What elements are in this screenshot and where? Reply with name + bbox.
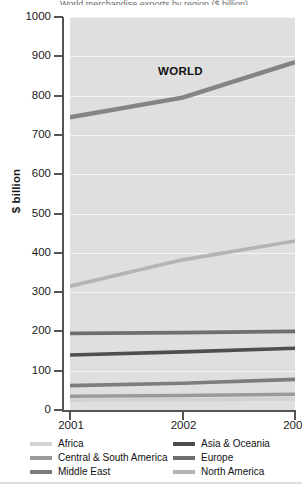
legend-item[interactable]: Africa — [30, 437, 161, 451]
series-line-europe — [70, 331, 295, 333]
world-series-annotation: WORLD — [158, 65, 203, 77]
y-axis-tick-label-wrap: 400 — [0, 253, 51, 254]
legend-item[interactable]: Middle East — [30, 465, 161, 479]
y-axis-tick-label: 700 — [5, 128, 51, 140]
legend: AfricaCentral & South AmericaMiddle East… — [30, 437, 292, 479]
legend-item[interactable]: Asia & Oceania — [173, 437, 302, 451]
legend-item-label: Africa — [58, 439, 84, 449]
legend-color-swatch — [173, 470, 195, 474]
legend-item-label: Central & South America — [58, 453, 168, 463]
y-axis-tick-label-wrap: 700 — [0, 135, 51, 136]
y-axis-tick-label-wrap: 0 — [0, 410, 51, 411]
y-axis-tick-mark — [54, 173, 63, 175]
series-line-middle-east — [70, 379, 295, 385]
x-axis-tick-label: 2001 — [41, 419, 101, 431]
y-axis-tick-label-wrap: 200 — [0, 331, 51, 332]
series-line-north-america — [70, 241, 295, 286]
y-axis-tick-label: 1000 — [5, 10, 51, 22]
legend-item[interactable]: Europe — [173, 451, 302, 465]
legend-item[interactable]: North America — [173, 465, 302, 479]
legend-color-swatch — [30, 456, 52, 460]
y-axis-tick-label-wrap: 600 — [0, 174, 51, 175]
x-axis-tick-label: 2003 — [266, 419, 302, 431]
series-line-africa — [70, 399, 295, 400]
legend-color-swatch — [173, 442, 195, 446]
y-axis-tick-label-wrap: 800 — [0, 96, 51, 97]
y-axis-tick-label: 0 — [5, 403, 51, 415]
y-axis-tick-label: 500 — [5, 207, 51, 219]
chart-title-cropped: World merchandise exports by region ($ b… — [60, 0, 295, 5]
y-axis-tick-mark — [54, 252, 63, 254]
y-axis-tick-label: 600 — [5, 167, 51, 179]
y-axis-tick-label-wrap: 500 — [0, 214, 51, 215]
y-axis-tick-label: 200 — [5, 324, 51, 336]
legend-color-swatch — [30, 470, 52, 474]
y-axis-tick-label: 100 — [5, 364, 51, 376]
line-chart-figure: World merchandise exports by region ($ b… — [0, 0, 302, 484]
y-axis-tick-label-wrap: 1000 — [0, 17, 51, 18]
legend-item-label: Asia & Oceania — [201, 439, 270, 449]
y-axis-tick-mark — [54, 16, 63, 18]
y-axis-tick-label-wrap: 900 — [0, 56, 51, 57]
y-axis-tick-label: 900 — [5, 49, 51, 61]
legend-item[interactable]: Central & South America — [30, 451, 161, 465]
series-line-central-south-america — [70, 394, 295, 396]
y-axis-tick-label: 300 — [5, 285, 51, 297]
y-axis-tick-mark — [54, 370, 63, 372]
plot-area: WORLD — [70, 17, 295, 410]
y-axis-tick-mark — [54, 134, 63, 136]
x-axis-tick-label: 2002 — [154, 419, 214, 431]
y-axis-tick-mark — [54, 55, 63, 57]
legend-column-left: AfricaCentral & South AmericaMiddle East — [30, 437, 161, 479]
y-axis-tick-label: 400 — [5, 246, 51, 258]
legend-item-label: Middle East — [58, 467, 110, 477]
y-axis-tick-label-wrap: 300 — [0, 292, 51, 293]
y-axis-tick-mark — [54, 330, 63, 332]
legend-item-label: Europe — [201, 453, 233, 463]
y-axis-tick-mark — [54, 291, 63, 293]
y-axis-tick-label-wrap: 100 — [0, 371, 51, 372]
y-axis-tick-mark — [54, 95, 63, 97]
y-axis-tick-label: 800 — [5, 89, 51, 101]
legend-color-swatch — [30, 442, 52, 446]
y-axis-tick-mark — [54, 213, 63, 215]
legend-column-right: Asia & OceaniaEuropeNorth America — [173, 437, 302, 479]
series-line-asia-oceania — [70, 348, 295, 355]
legend-color-swatch — [173, 456, 195, 460]
x-axis-line — [62, 410, 296, 412]
legend-item-label: North America — [201, 467, 264, 477]
